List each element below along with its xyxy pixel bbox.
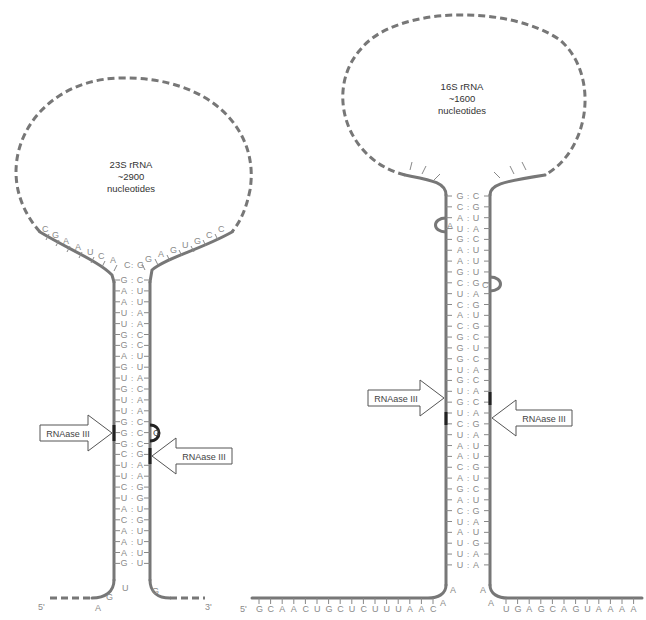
pair-bond: : bbox=[131, 261, 133, 270]
nucleotide-3p: U bbox=[137, 297, 144, 307]
nucleotide-5p: A bbox=[457, 256, 463, 266]
23s-unpaired-nucleotides: CGAAUCAGAGUGCCUGAG bbox=[42, 224, 225, 613]
nucleotide-5p: A bbox=[457, 441, 463, 451]
base-pair: U:A bbox=[446, 549, 490, 559]
nucleotide: A bbox=[291, 604, 297, 614]
23s-3p-end: 3' bbox=[205, 602, 212, 612]
nucleotide: A bbox=[158, 249, 164, 259]
nucleotide: G bbox=[152, 586, 159, 596]
pair-bond: · bbox=[467, 539, 470, 548]
nucleotide-5p: G bbox=[456, 234, 463, 244]
16s-c-bulge-nucleotide: C bbox=[482, 280, 489, 290]
base-pair: U:A bbox=[114, 319, 150, 329]
nucleotide-5p: C bbox=[457, 419, 464, 429]
base-pair: A:U bbox=[446, 473, 490, 483]
pair-bond: : bbox=[467, 301, 469, 310]
nucleotide-3p: A bbox=[473, 408, 479, 418]
nucleotide: A bbox=[95, 603, 101, 613]
nucleotide-5p: G bbox=[120, 558, 127, 568]
nucleotide-5p: A bbox=[121, 297, 127, 307]
nucleotide-3p: U bbox=[137, 558, 144, 568]
nucleotide-3p: U bbox=[137, 537, 144, 547]
pair-bond: · bbox=[467, 355, 470, 364]
nucleotide-3p: U bbox=[473, 213, 480, 223]
nucleotide-3p: A bbox=[473, 224, 479, 234]
base-pair: C:G bbox=[446, 462, 490, 472]
nucleotide-5p: U bbox=[121, 406, 128, 416]
nucleotide: U bbox=[87, 247, 94, 257]
nucleotide-3p: A bbox=[137, 406, 143, 416]
nucleotide-3p: A bbox=[137, 395, 143, 405]
16s-stem-pairs: G:CC:GA:UU:AG:CA:UA:UG:UC:GU:AC:GA:UC:GG… bbox=[446, 191, 490, 570]
nucleotide-3p: A bbox=[137, 373, 143, 383]
nucleotide: C bbox=[98, 251, 105, 261]
nucleotide-3p: A bbox=[137, 308, 143, 318]
base-pair: U:A bbox=[446, 430, 490, 440]
base-pair: G:C bbox=[114, 340, 150, 350]
pair-bond: : bbox=[131, 341, 133, 350]
nucleotide-3p: U bbox=[137, 504, 144, 514]
nucleotide-5p: C bbox=[457, 462, 464, 472]
nucleotide-3p: C bbox=[473, 354, 480, 364]
base-pair: U:A bbox=[114, 471, 150, 481]
nucleotide: A bbox=[418, 604, 424, 614]
nucleotide: A bbox=[450, 585, 456, 595]
svg-text:RNAase III: RNAase III bbox=[182, 452, 226, 462]
nucleotide-5p: U bbox=[457, 538, 464, 548]
nucleotide-5p: C bbox=[457, 202, 464, 212]
nucleotide-5p: U bbox=[457, 224, 464, 234]
nucleotide: A bbox=[526, 604, 532, 614]
nucleotide-5p: G bbox=[456, 375, 463, 385]
pair-bond: : bbox=[467, 322, 469, 331]
pair-bond: : bbox=[131, 483, 133, 492]
nucleotide-5p: A bbox=[121, 504, 127, 514]
pair-bond: · bbox=[131, 559, 134, 568]
23s-rnaase-iii-arrow-right: RNAase III bbox=[152, 438, 232, 474]
nucleotide: U bbox=[349, 604, 356, 614]
nucleotide-3p: U bbox=[473, 473, 480, 483]
nucleotide: C bbox=[302, 604, 309, 614]
16s-3p-loop-arc bbox=[490, 175, 545, 195]
nucleotide-3p: G bbox=[472, 300, 479, 310]
base-pair: G·U bbox=[114, 362, 150, 372]
nucleotide: U bbox=[503, 604, 510, 614]
nucleotide: C bbox=[124, 260, 131, 270]
nucleotide: G bbox=[52, 230, 59, 240]
16s-rnaase-iii-arrow-left: RNAase III bbox=[368, 380, 444, 416]
nucleotide: A bbox=[110, 255, 116, 265]
nucleotide-3p: G bbox=[472, 506, 479, 516]
nucleotide-5p: G bbox=[120, 340, 127, 350]
16s-5p-bottom-curve bbox=[252, 585, 446, 598]
nucleotide: G bbox=[256, 604, 263, 614]
nucleotide-5p: A bbox=[121, 548, 127, 558]
nucleotide: A bbox=[279, 604, 285, 614]
nucleotide-3p: A bbox=[137, 319, 143, 329]
16s-5p-loop-arc bbox=[405, 175, 446, 195]
base-pair: G:C bbox=[446, 191, 490, 201]
nucleotide: A bbox=[561, 604, 567, 614]
pair-bond: · bbox=[131, 494, 134, 503]
nucleotide-5p: C bbox=[121, 482, 128, 492]
nucleotide-5p: A bbox=[457, 245, 463, 255]
nucleotide: U bbox=[584, 604, 591, 614]
nucleotide-5p: G bbox=[120, 417, 127, 427]
nucleotide-3p: C bbox=[137, 439, 144, 449]
base-pair: A:U bbox=[114, 286, 150, 296]
pair-bond: : bbox=[131, 320, 133, 329]
base-pair: A:U bbox=[114, 548, 150, 558]
base-pair: U:A bbox=[446, 560, 490, 570]
nucleotide: C bbox=[360, 604, 367, 614]
nucleotide-3p: U bbox=[137, 526, 144, 536]
base-pair: G:C bbox=[114, 439, 150, 449]
base-pair: G·U bbox=[446, 343, 490, 353]
pair-bond: : bbox=[131, 549, 133, 558]
23s-rnaase-iii-arrow-left: RNAase III bbox=[40, 415, 112, 451]
base-pair: G·C bbox=[446, 354, 490, 364]
nucleotide-5p: U bbox=[457, 408, 464, 418]
nucleotide-5p: C bbox=[457, 278, 464, 288]
pair-bond: : bbox=[131, 429, 133, 438]
base-pair: G:C bbox=[114, 428, 150, 438]
base-pair: U:A bbox=[114, 406, 150, 416]
base-pair: G:C bbox=[114, 330, 150, 340]
nucleotide-5p: A bbox=[121, 286, 127, 296]
